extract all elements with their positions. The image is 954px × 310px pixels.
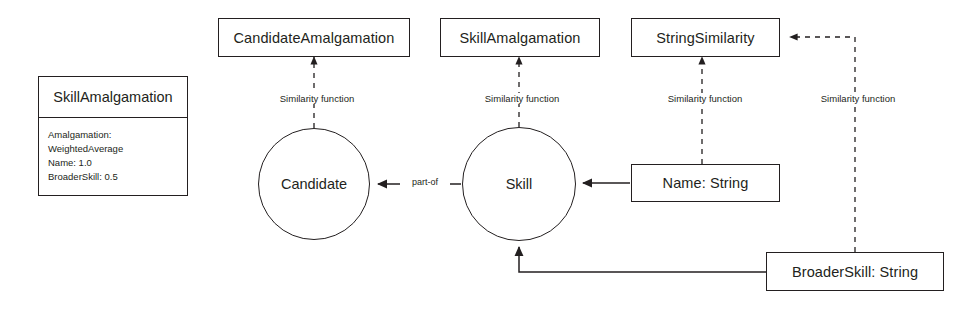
skill-amalgamation-attributes: Amalgamation: WeightedAverage Name: 1.0 … bbox=[39, 118, 187, 195]
attribute-row: Amalgamation: bbox=[48, 128, 187, 142]
attribute-row: WeightedAverage bbox=[48, 142, 187, 156]
edge-label-similarity-broader-skill: Similarity function bbox=[797, 93, 919, 104]
node-candidate-circle[interactable]: Candidate bbox=[258, 128, 370, 240]
node-candidate-amalgamation[interactable]: CandidateAmalgamation bbox=[218, 18, 410, 57]
node-skill-circle[interactable]: Skill bbox=[462, 127, 576, 241]
node-broader-skill-string[interactable]: BroaderSkill: String bbox=[766, 252, 944, 291]
edge-broaderskill-to-skill bbox=[519, 247, 766, 272]
attribute-row: Name: 1.0 bbox=[48, 156, 187, 170]
edge-label-similarity-candidate: Similarity function bbox=[256, 93, 378, 104]
edge-label-part-of: part-of bbox=[400, 177, 450, 187]
attribute-row: BroaderSkill: 0.5 bbox=[48, 170, 187, 184]
edge-label-similarity-name: Similarity function bbox=[644, 93, 766, 104]
edge-label-similarity-skill: Similarity function bbox=[461, 93, 583, 104]
diagram-canvas: SkillAmalgamation Amalgamation: Weighted… bbox=[0, 0, 954, 310]
node-skill-amalgamation[interactable]: SkillAmalgamation bbox=[440, 18, 600, 57]
node-string-similarity[interactable]: StringSimilarity bbox=[631, 18, 780, 57]
skill-amalgamation-uml-title: SkillAmalgamation bbox=[39, 77, 187, 118]
edge-broaderskill-similarity bbox=[790, 37, 855, 252]
node-name-string[interactable]: Name: String bbox=[631, 164, 780, 202]
skill-amalgamation-uml-box[interactable]: SkillAmalgamation Amalgamation: Weighted… bbox=[38, 76, 188, 196]
